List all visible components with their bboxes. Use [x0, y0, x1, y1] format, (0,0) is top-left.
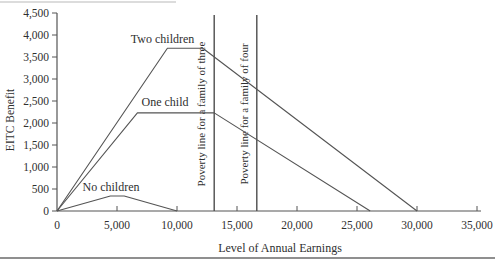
no-children-label: No children — [83, 180, 140, 194]
x-tick-label: 10,000 — [161, 219, 193, 232]
y-tick-label: 1,000 — [23, 161, 49, 174]
x-axis-title: Level of Annual Earnings — [218, 241, 342, 255]
x-tick-label: 15,000 — [221, 219, 253, 232]
x-tick-label: 25,000 — [341, 219, 373, 232]
x-tick-label: 5,000 — [104, 219, 130, 232]
y-tick-label: 2,000 — [23, 117, 49, 130]
y-tick-label: 3,000 — [23, 73, 49, 86]
y-tick-label: 500 — [32, 183, 50, 195]
y-tick-label: 3,500 — [23, 51, 49, 64]
top-partial-rule — [0, 1, 176, 3]
figure-page: 05001,0001,5002,0002,5003,0003,5004,0004… — [0, 0, 495, 266]
x-tick-label: 35,000 — [461, 219, 493, 232]
poverty-line-family-of-four-label: Poverty line for a family of four — [238, 43, 250, 184]
y-tick-label: 2,500 — [23, 95, 49, 108]
one-child-label: One child — [142, 95, 189, 109]
bottom-divider-rule — [0, 257, 495, 259]
y-axis-title: EITC Benefit — [4, 88, 16, 151]
x-tick-label: 20,000 — [281, 219, 313, 232]
eitc-benefit-chart: 05001,0001,5002,0002,5003,0003,5004,0004… — [0, 0, 495, 266]
y-tick-label: 0 — [43, 205, 49, 217]
two-children-label: Two children — [131, 32, 194, 46]
y-tick-label: 1,500 — [23, 139, 49, 152]
x-tick-label: 30,000 — [401, 219, 433, 232]
x-tick-label: 0 — [54, 219, 60, 231]
y-tick-label: 4,000 — [23, 29, 49, 42]
poverty-line-family-of-three-label: Poverty line for a family of three — [195, 41, 207, 186]
y-tick-label: 4,500 — [23, 7, 49, 20]
